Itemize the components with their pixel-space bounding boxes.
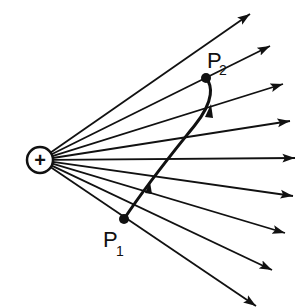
field-lines xyxy=(51,14,295,306)
point-p2 xyxy=(201,73,211,83)
field-line-3 xyxy=(52,84,283,156)
field-line-6 xyxy=(53,162,293,196)
field-line-9 xyxy=(51,167,256,306)
charge-plus-icon: + xyxy=(34,149,46,171)
label-p1-sub: 1 xyxy=(116,243,124,259)
label-p2-sub: 2 xyxy=(219,62,227,78)
field-line-7 xyxy=(52,164,285,233)
field-line-5 xyxy=(53,158,295,160)
field-line-2 xyxy=(52,46,270,154)
field-line-8 xyxy=(52,166,272,270)
point-p1 xyxy=(119,214,129,224)
field-diagram: + P 1 P 2 xyxy=(0,0,308,308)
